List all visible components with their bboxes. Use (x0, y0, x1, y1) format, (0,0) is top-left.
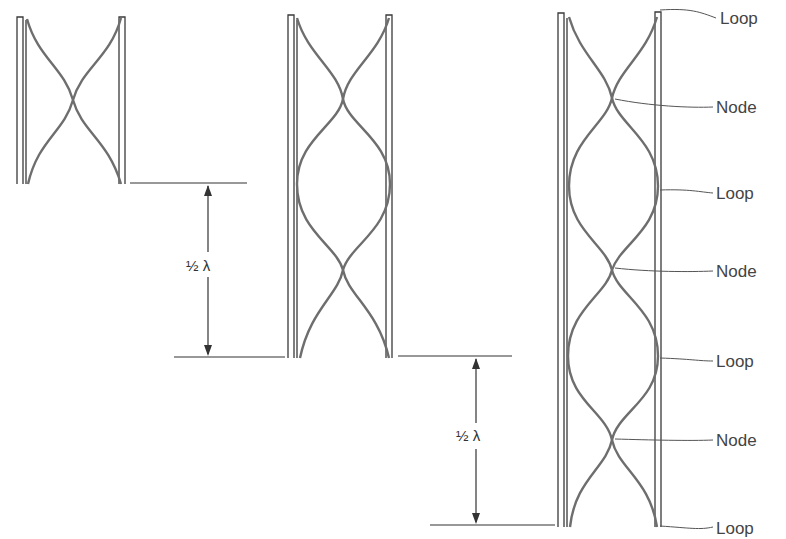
label-node-3: Node (716, 432, 757, 449)
dimension-label-2: ½ λ (456, 428, 480, 443)
label-node-2: Node (716, 263, 757, 280)
standing-wave-diagram (0, 0, 786, 539)
tube-1 (17, 17, 125, 184)
annotation-leaders (615, 9, 716, 528)
label-loop-3: Loop (716, 353, 754, 370)
dimension-label-1: ½ λ (186, 258, 210, 273)
label-node-1: Node (716, 99, 757, 116)
label-loop-2: Loop (716, 185, 754, 202)
label-loop-1: Loop (720, 10, 758, 27)
tube-2 (288, 15, 392, 358)
label-loop-4: Loop (716, 520, 754, 537)
tube-3 (558, 12, 661, 527)
wave-curve (27, 19, 121, 184)
